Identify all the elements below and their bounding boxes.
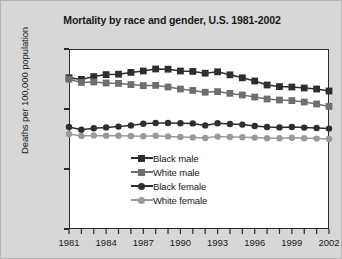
legend-marker-square-icon <box>131 152 153 164</box>
data-point <box>202 135 208 141</box>
data-point <box>91 132 97 138</box>
x-tick-label: 1990 <box>160 237 200 248</box>
data-point <box>140 133 146 139</box>
data-point <box>66 131 72 137</box>
data-point <box>252 134 258 140</box>
data-point <box>189 87 196 94</box>
x-tick-label: 1984 <box>86 237 126 248</box>
data-point <box>326 136 332 142</box>
data-point <box>313 86 320 93</box>
y-axis-label: Deaths per 100,000 population <box>19 1 30 181</box>
data-point <box>276 135 282 141</box>
data-point <box>140 121 146 127</box>
data-point <box>289 124 295 130</box>
data-point <box>239 92 246 99</box>
legend-label: White male <box>153 167 200 178</box>
data-point <box>252 123 258 129</box>
data-point <box>301 135 307 141</box>
data-point <box>239 74 246 81</box>
data-point <box>251 78 258 85</box>
x-tick-label: 1987 <box>123 237 163 248</box>
data-point <box>177 86 184 93</box>
x-minor-ticks <box>69 229 329 234</box>
data-point <box>152 82 159 89</box>
chart-legend: Black male White male Black female White… <box>131 151 251 207</box>
data-point <box>90 79 97 86</box>
data-point <box>177 134 183 140</box>
data-point <box>214 68 221 75</box>
data-point <box>313 125 319 131</box>
data-point <box>103 124 109 130</box>
data-point <box>289 135 295 141</box>
data-point <box>152 133 158 139</box>
data-point <box>288 84 295 91</box>
legend-item-white-female[interactable]: White female <box>131 193 251 207</box>
legend-marker-square-icon <box>131 166 153 178</box>
chart-figure: Mortality by race and gender, U.S. 1981-… <box>0 0 342 259</box>
series-black-female <box>66 120 332 133</box>
data-point <box>202 70 209 77</box>
legend-label: White female <box>153 195 207 206</box>
data-point <box>214 88 221 95</box>
x-tick-label: 1999 <box>272 237 312 248</box>
legend-label: Black female <box>153 181 206 192</box>
data-point <box>239 121 245 127</box>
data-point <box>115 133 121 139</box>
x-tick-label: 1996 <box>235 237 275 248</box>
data-point <box>276 97 283 104</box>
data-point <box>66 76 73 83</box>
data-point <box>301 124 307 130</box>
data-point <box>227 134 233 140</box>
data-point <box>202 89 209 96</box>
legend-marker-circle-icon <box>131 180 153 192</box>
data-point <box>78 127 84 133</box>
data-point <box>214 133 220 139</box>
data-point <box>78 133 84 139</box>
legend-label: Black male <box>153 153 198 164</box>
data-point <box>190 120 196 126</box>
data-point <box>301 85 308 92</box>
data-point <box>165 133 171 139</box>
data-point <box>91 125 97 131</box>
data-point <box>152 66 159 73</box>
data-point <box>103 71 110 78</box>
data-point <box>264 96 271 103</box>
data-point <box>227 90 234 97</box>
legend-marker-circle-icon <box>131 194 153 206</box>
data-point <box>326 88 333 95</box>
data-point <box>326 125 332 131</box>
series-white-female <box>66 131 332 142</box>
data-point <box>140 82 147 89</box>
data-point <box>189 68 196 75</box>
data-point <box>128 81 135 88</box>
legend-item-black-female[interactable]: Black female <box>131 179 251 193</box>
series-white-male <box>66 76 333 110</box>
data-point <box>128 133 134 139</box>
legend-item-white-male[interactable]: White male <box>131 165 251 179</box>
data-point <box>214 120 220 126</box>
data-point <box>165 66 172 73</box>
data-point <box>152 120 158 126</box>
data-point <box>165 84 172 91</box>
data-point <box>251 94 258 101</box>
legend-item-black-male[interactable]: Black male <box>131 151 251 165</box>
data-point <box>313 101 320 108</box>
data-point <box>276 124 282 130</box>
chart-title: Mortality by race and gender, U.S. 1981-… <box>1 14 342 26</box>
data-point <box>264 135 270 141</box>
x-tick-label: 2002 <box>309 237 342 248</box>
data-point <box>140 68 147 75</box>
data-point <box>288 97 295 104</box>
data-point <box>177 68 184 75</box>
data-point <box>264 82 271 89</box>
data-point <box>128 122 134 128</box>
data-point <box>227 121 233 127</box>
data-point <box>103 80 110 87</box>
data-point <box>227 71 234 78</box>
data-point <box>66 124 72 130</box>
data-point <box>202 122 208 128</box>
data-point <box>177 120 183 126</box>
data-point <box>115 123 121 129</box>
data-point <box>276 83 283 90</box>
x-tick-label: 1981 <box>49 237 89 248</box>
